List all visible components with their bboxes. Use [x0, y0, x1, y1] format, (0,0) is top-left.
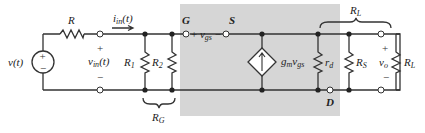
resistor-R1 — [141, 34, 149, 90]
R1-label: R1 — [123, 56, 135, 70]
output-terminal-top — [378, 31, 384, 37]
resistor-R-label: R — [67, 14, 75, 26]
vo-plus: + — [382, 42, 388, 54]
input-terminal-top — [97, 31, 103, 37]
drain-label: D — [325, 96, 334, 108]
vin-minus: − — [97, 71, 103, 83]
RL-brace-label: RL — [349, 4, 362, 18]
input-current-label: iin(t) — [113, 12, 133, 26]
vo-minus: − — [383, 71, 389, 83]
voltage-source: + − — [32, 50, 54, 74]
resistor-R2 — [168, 34, 176, 90]
RG-label: RG — [151, 111, 165, 125]
input-terminal-bottom — [97, 87, 103, 93]
vin-plus: + — [97, 42, 103, 54]
resistor-R — [60, 30, 84, 38]
gate-terminal — [183, 31, 189, 37]
circuit-diagram: + − v(t) R iin(t) + vin(t) − R1 R2 RG G … — [0, 0, 425, 133]
source-minus: − — [40, 62, 46, 74]
resistor-RL — [392, 34, 400, 90]
drain-terminal — [327, 87, 333, 93]
source-label: v(t) — [8, 56, 24, 69]
gate-label: G — [182, 14, 190, 26]
source-terminal — [223, 31, 229, 37]
RG-brace — [143, 98, 175, 108]
source-node-label: S — [229, 14, 235, 26]
R2-label: R2 — [151, 56, 163, 70]
source-plus: + — [40, 50, 46, 62]
RL-label: RL — [403, 56, 416, 70]
output-terminal-bottom — [378, 87, 384, 93]
input-voltage-label: vin(t) — [88, 55, 110, 69]
RS-label: RS — [355, 56, 367, 70]
current-arrow — [112, 26, 133, 31]
vo-label: vo — [379, 56, 388, 70]
resistor-RS — [345, 34, 353, 90]
